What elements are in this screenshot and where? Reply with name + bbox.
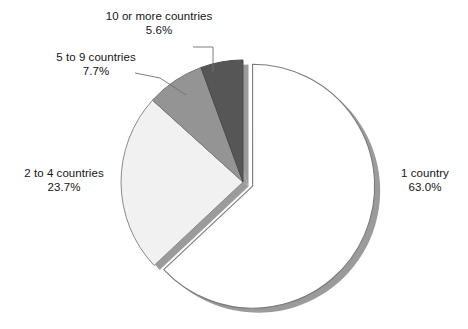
slice-label-name: 10 or more countries <box>95 10 223 24</box>
slice-label-five-to-nine-countries: 5 to 9 countries 7.7% <box>41 51 151 78</box>
slice-label-percent: 63.0% <box>388 181 462 195</box>
slice-label-percent: 7.7% <box>41 65 151 79</box>
slice-label-name: 2 to 4 countries <box>8 167 120 181</box>
slice-label-name: 5 to 9 countries <box>41 51 151 65</box>
slice-label-two-to-four-countries: 2 to 4 countries 23.7% <box>8 167 120 194</box>
slice-label-ten-or-more-countries: 10 or more countries 5.6% <box>95 10 223 37</box>
slice-label-one-country: 1 country 63.0% <box>388 167 462 194</box>
slice-label-percent: 23.7% <box>8 181 120 195</box>
slice-label-name: 1 country <box>388 167 462 181</box>
pie-chart-canvas <box>0 0 468 329</box>
slice-label-percent: 5.6% <box>95 24 223 38</box>
pie-chart: 10 or more countries 5.6% 5 to 9 countri… <box>0 0 468 329</box>
